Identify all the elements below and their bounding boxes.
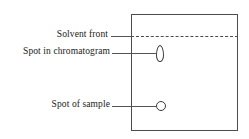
chromatography-plate — [131, 14, 238, 131]
leader-line-spot-in-chromatogram — [112, 53, 156, 54]
chromatography-figure: Solvent front Spot in chromatogram Spot … — [0, 0, 249, 139]
solvent-front-line — [131, 36, 238, 37]
spot-of-sample-marker — [156, 101, 166, 111]
label-spot-of-sample: Spot of sample — [8, 99, 110, 110]
label-solvent-front: Solvent front — [8, 29, 108, 40]
label-spot-in-chromatogram: Spot in chromatogram — [2, 46, 110, 57]
leader-line-solvent-front — [111, 36, 132, 37]
leader-line-spot-of-sample — [112, 106, 156, 107]
spot-in-chromatogram-marker — [156, 45, 164, 62]
